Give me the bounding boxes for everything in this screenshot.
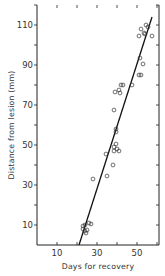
scatter-chart: 1030507090110103050 Days for recovery Di…: [0, 0, 165, 276]
y-tick-label: 30: [22, 180, 33, 190]
data-point: [105, 174, 109, 178]
y-tick-label: 110: [17, 20, 33, 30]
y-tick-label: 90: [22, 60, 33, 70]
data-point: [91, 177, 95, 181]
y-tick-label: 70: [22, 100, 33, 110]
data-point: [141, 62, 145, 66]
axis-ticks: [34, 5, 159, 245]
plot-axes: [37, 5, 159, 245]
data-point: [104, 152, 108, 156]
y-tick-label: 50: [22, 140, 33, 150]
y-axis-title: Distance from lesion (mm): [7, 71, 16, 180]
x-tick-label: 30: [92, 248, 103, 258]
axis-tick-labels: 1030507090110103050: [17, 20, 143, 258]
y-tick-label: 10: [22, 220, 33, 230]
data-point: [114, 142, 118, 146]
data-point: [111, 163, 115, 167]
data-point: [112, 108, 116, 112]
data-point: [142, 31, 146, 35]
data-point: [139, 27, 143, 31]
x-tick-label: 50: [132, 248, 143, 258]
x-axis-title: Days for recovery: [62, 262, 135, 271]
data-point: [113, 90, 117, 94]
data-point: [137, 34, 141, 38]
x-tick-label: 10: [52, 248, 63, 258]
data-point: [150, 34, 154, 38]
